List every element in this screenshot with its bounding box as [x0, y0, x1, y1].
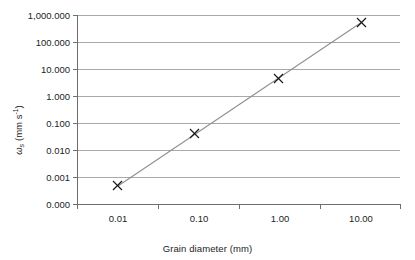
y-axis-subscript: s	[17, 144, 26, 148]
x-tick-label: 0.01	[109, 213, 128, 224]
x-tick-label: 0.10	[190, 213, 209, 224]
x-tick-label: 10.00	[349, 213, 373, 224]
y-axis-exponent: -1	[12, 108, 19, 114]
y-axis-unit-open: (mm s	[13, 115, 24, 144]
y-axis-title: ωs (mm s-1)	[12, 105, 26, 155]
x-axis-tick-labels: 0.01 0.10 1.00 10.00	[0, 0, 415, 260]
x-axis-title: Grain diameter (mm)	[0, 243, 415, 254]
y-axis-title-wrapper: ωs (mm s-1)	[8, 0, 30, 260]
chart-container: 1,000.000 100.000 10.000 1.000 0.100 0.0…	[0, 0, 415, 260]
y-axis-symbol: ω	[13, 147, 24, 154]
y-axis-unit-close: )	[13, 105, 24, 108]
x-tick-label: 1.00	[271, 213, 290, 224]
